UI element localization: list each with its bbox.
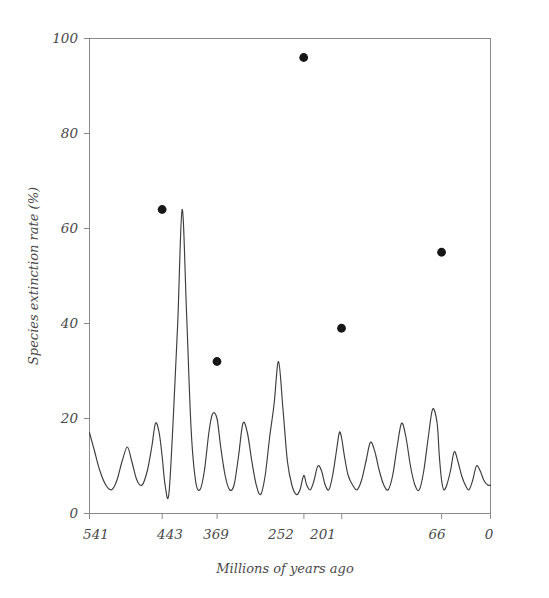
extinction-rate-chart: 100 80 60 40 20 0 541 443 369 252 201 66…	[0, 0, 549, 598]
x-tick-label-443: 443	[156, 526, 183, 542]
y-tick-label-20: 20	[60, 410, 79, 426]
peak-marker	[299, 53, 308, 62]
x-tick-label-201: 201	[309, 526, 336, 542]
chart-background	[0, 0, 549, 598]
peak-marker	[337, 324, 346, 333]
x-tick-label-541: 541	[83, 526, 109, 542]
x-tick-label-66: 66	[428, 526, 446, 542]
y-tick-label-40: 40	[60, 315, 79, 331]
peak-marker	[213, 357, 222, 366]
y-tick-label-100: 100	[52, 30, 78, 46]
x-tick-label-369: 369	[203, 526, 229, 542]
y-axis-title: Species extinction rate (%)	[26, 187, 41, 365]
x-axis-title: Millions of years ago	[215, 561, 354, 576]
y-tick-label-60: 60	[61, 220, 79, 236]
peak-marker	[437, 248, 446, 257]
y-tick-label-80: 80	[61, 125, 79, 141]
x-tick-label-252: 252	[267, 526, 294, 542]
peak-marker	[158, 205, 167, 214]
y-tick-label-0: 0	[69, 505, 78, 521]
x-tick-label-0: 0	[485, 526, 494, 542]
